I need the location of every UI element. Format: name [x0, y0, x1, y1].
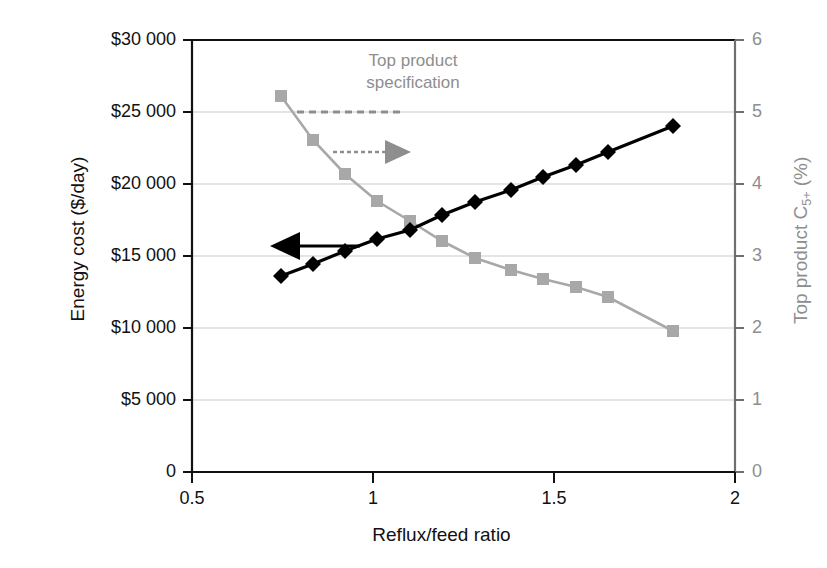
xtick-1: 1 [343, 488, 403, 509]
series-top-product-line [281, 96, 673, 331]
y-axis-label-right: Top product C5+ (%) [790, 110, 815, 370]
ytick-left-25000: $25 000 [40, 101, 176, 122]
ytick-right-0: 0 [752, 461, 792, 482]
ytick-left-5000: $5 000 [40, 389, 176, 410]
ytick-left-0: 0 [40, 461, 176, 482]
spec-annotation-label: Top product specification [333, 50, 493, 95]
y-axis-label-left: Energy cost ($/day) [67, 109, 89, 369]
chart-figure: $30 000 $25 000 $20 000 $15 000 $10 000 … [0, 0, 827, 568]
spec-annotation-line-2: specification [333, 72, 493, 94]
y-axis-label-right-text: Top product C5+ (%) [790, 157, 811, 324]
ytick-right-2: 2 [752, 317, 792, 338]
ytick-right-3: 3 [752, 245, 792, 266]
x-axis-ticks [192, 472, 735, 483]
xtick-2: 2 [705, 488, 765, 509]
ytick-right-1: 1 [752, 389, 792, 410]
spec-annotation-line-1: Top product [333, 50, 493, 72]
ytick-right-5: 5 [752, 101, 792, 122]
xtick-0-5: 0.5 [162, 488, 222, 509]
xtick-1-5: 1.5 [524, 488, 584, 509]
ytick-right-6: 6 [752, 29, 792, 50]
ytick-left-15000: $15 000 [40, 245, 176, 266]
ytick-right-4: 4 [752, 173, 792, 194]
right-axis-ticks [735, 40, 744, 472]
ytick-left-30000: $30 000 [40, 29, 176, 50]
ytick-left-20000: $20 000 [40, 173, 176, 194]
series-top-product-markers [275, 90, 679, 337]
left-axis-ticks [183, 40, 192, 472]
ytick-left-10000: $10 000 [40, 317, 176, 338]
right-axis-pointer-arrow [333, 140, 411, 164]
x-axis-label: Reflux/feed ratio [0, 524, 827, 546]
gridlines [192, 112, 735, 400]
x-axis-label-text: Reflux/feed ratio [372, 524, 510, 545]
